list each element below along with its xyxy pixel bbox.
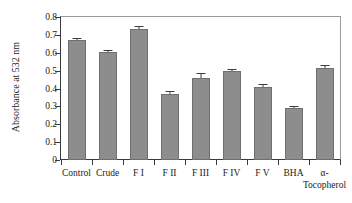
x-tick-label: BHA [283, 167, 303, 179]
chart-figure: Absorbance at 532 nm 0.80.70.60.50.40.30… [0, 0, 352, 203]
error-bar-cap [320, 65, 329, 66]
bar-group [185, 17, 216, 160]
x-tick-mark [61, 160, 62, 165]
x-tick-label: F IV [223, 167, 241, 179]
error-bar-cap [165, 91, 174, 92]
x-tick-label: F V [255, 167, 269, 179]
x-tick-label: Control [62, 167, 91, 179]
error-bar-cap [227, 69, 236, 70]
bar [254, 87, 272, 160]
y-tick-label: 0.8 [23, 12, 57, 22]
bar-group [61, 17, 92, 160]
bar [68, 40, 86, 160]
x-tick-label-line: Crude [96, 168, 119, 178]
error-bar-cap [103, 50, 112, 51]
y-tick-label: 0 [23, 155, 57, 165]
x-tick-mark [92, 160, 93, 165]
y-tick-mark [55, 160, 60, 161]
x-tick-mark [278, 160, 279, 165]
y-tick-label: 0.6 [23, 48, 57, 58]
bar-group [123, 17, 154, 160]
bar-group [247, 17, 278, 160]
bar-group [278, 17, 309, 160]
error-bar-cap [134, 26, 143, 27]
y-axis-title-label: Absorbance at 532 nm [10, 42, 21, 132]
x-tick-mark [309, 160, 310, 165]
x-tick-label-line: F V [255, 168, 269, 178]
bar [316, 68, 334, 160]
y-tick-label: 0.3 [23, 101, 57, 111]
bar-series [61, 17, 340, 160]
x-tick-mark [185, 160, 186, 165]
x-tick-label-line: Tocopherol [303, 179, 346, 191]
bar [161, 94, 179, 160]
bar [285, 108, 303, 160]
bar-group [216, 17, 247, 160]
x-tick-label-line: F III [192, 168, 209, 178]
bar [99, 52, 117, 160]
x-tick-label: Crude [96, 167, 119, 179]
bar [223, 71, 241, 160]
x-tick-mark [154, 160, 155, 165]
x-tick-label-line: F IV [223, 168, 241, 178]
y-tick-label: 0.1 [23, 137, 57, 147]
x-tick-label-line: BHA [283, 168, 303, 178]
error-bar-cap [258, 84, 267, 85]
x-tick-label: F I [133, 167, 144, 179]
x-tick-mark [216, 160, 217, 165]
bar-group [154, 17, 185, 160]
x-tick-label-line: α- [320, 168, 328, 178]
y-tick-label: 0.4 [23, 84, 57, 94]
x-tick-mark [123, 160, 124, 165]
y-tick-label: 0.2 [23, 119, 57, 129]
error-bar-cap [289, 106, 298, 107]
x-tick-label: F III [192, 167, 209, 179]
bar-group [92, 17, 123, 160]
bar [192, 78, 210, 160]
x-tick-mark [247, 160, 248, 165]
y-tick-label: 0.5 [23, 66, 57, 76]
x-tick-label: α-Tocopherol [303, 167, 346, 191]
y-axis-title: Absorbance at 532 nm [8, 14, 22, 160]
x-tick-label-line: Control [62, 168, 91, 178]
x-tick-label: F II [163, 167, 177, 179]
x-tick-label-line: F I [133, 168, 144, 178]
bar [130, 29, 148, 160]
y-tick-label: 0.7 [23, 30, 57, 40]
error-bar-cap [72, 38, 81, 39]
error-bar-cap [196, 73, 205, 74]
x-tick-mark [340, 160, 341, 165]
x-tick-label-line: F II [163, 168, 177, 178]
bar-group [309, 17, 340, 160]
